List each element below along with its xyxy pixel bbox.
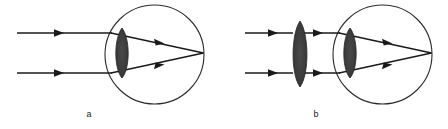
- incoming-ray-a-top-arrowhead: [54, 29, 64, 37]
- refracted-ray-b-bottom-arrowhead: [382, 63, 393, 70]
- external-corrective-lens-b: [293, 21, 307, 87]
- panel-a-group: [17, 5, 204, 104]
- middle-ray-b-bottom-arrowhead: [313, 69, 323, 77]
- refracted-ray-a-bottom-arrowhead: [154, 63, 165, 70]
- incoming-ray-b-top-arrowhead: [268, 29, 278, 37]
- panel-label-a: a: [79, 110, 99, 119]
- incoming-rays-b: [245, 29, 293, 77]
- panel-label-b: b: [306, 110, 326, 119]
- panel-b-group: [245, 5, 432, 104]
- ray-diagram-canvas: [0, 0, 448, 129]
- external-corrective-lens-b-shape: [293, 21, 307, 87]
- optics-ray-diagram-figure: a b: [0, 0, 448, 129]
- incoming-ray-b-bottom-arrowhead: [268, 69, 278, 77]
- incoming-rays-a: [17, 29, 112, 77]
- incoming-ray-a-bottom-arrowhead: [54, 69, 64, 77]
- middle-ray-b-top-arrowhead: [313, 29, 323, 37]
